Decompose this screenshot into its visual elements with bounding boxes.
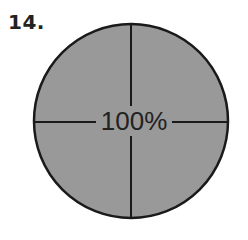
- percent-label: 100%: [96, 106, 172, 136]
